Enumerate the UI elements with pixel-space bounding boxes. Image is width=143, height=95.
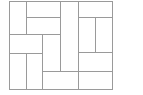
- tile-rect: [9, 53, 27, 90]
- tile-rect: [26, 53, 43, 90]
- tile-rect: [42, 34, 61, 72]
- tile-rect: [26, 1, 61, 18]
- tile-rect: [78, 1, 113, 18]
- tile-rect: [9, 1, 27, 35]
- tile-rect: [78, 17, 96, 53]
- tile-rect: [42, 71, 79, 90]
- tile-rect: [95, 17, 113, 53]
- tile-rect: [78, 52, 113, 72]
- tile-rect: [26, 17, 61, 35]
- tile-rect: [9, 34, 43, 54]
- tile-rect: [78, 71, 113, 90]
- tile-rect: [60, 1, 79, 72]
- tiling-diagram: [0, 0, 143, 95]
